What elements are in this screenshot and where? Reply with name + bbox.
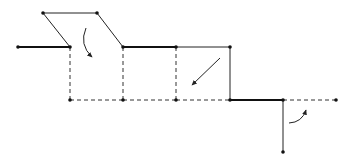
vertex-dot bbox=[68, 45, 72, 49]
dashed-construction-lines bbox=[70, 47, 336, 100]
thick-tread-lines bbox=[18, 47, 283, 100]
vertex-dot bbox=[95, 11, 99, 15]
rotate-up-arrow-icon bbox=[289, 110, 306, 123]
vertex-dot bbox=[281, 98, 285, 102]
vertex-dot bbox=[41, 11, 45, 15]
vertex-dots bbox=[16, 11, 338, 154]
riser-line bbox=[97, 13, 123, 47]
vertex-dot bbox=[16, 45, 20, 49]
vertex-dot bbox=[174, 45, 178, 49]
thin-riser-lines bbox=[43, 13, 283, 152]
rotation-arrows bbox=[83, 28, 306, 123]
staircase-diagram bbox=[0, 0, 354, 159]
diagonal-down-left-arrow-icon bbox=[192, 58, 220, 85]
rotate-down-arrow-icon bbox=[83, 28, 92, 57]
vertex-dot bbox=[334, 98, 338, 102]
riser-line bbox=[43, 13, 70, 47]
vertex-dot bbox=[174, 98, 178, 102]
vertex-dot bbox=[121, 45, 125, 49]
vertex-dot bbox=[228, 98, 232, 102]
vertex-dot bbox=[281, 150, 285, 154]
vertex-dot bbox=[121, 98, 125, 102]
vertex-dot bbox=[68, 98, 72, 102]
vertex-dot bbox=[228, 45, 232, 49]
